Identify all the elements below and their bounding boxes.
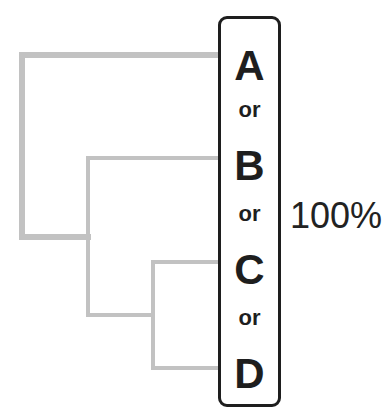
leaf-group-box: A or B or C or D	[218, 16, 281, 407]
leaf-a: A	[221, 45, 278, 87]
or-label: or	[221, 99, 278, 121]
branch-cd	[153, 262, 218, 368]
or-label: or	[221, 307, 278, 329]
or-label: or	[221, 203, 278, 225]
branch-root	[22, 55, 218, 237]
percentage-label: 100%	[290, 196, 382, 236]
leaf-c: C	[221, 249, 278, 291]
leaf-d: D	[221, 353, 278, 395]
leaf-b: B	[221, 145, 278, 187]
